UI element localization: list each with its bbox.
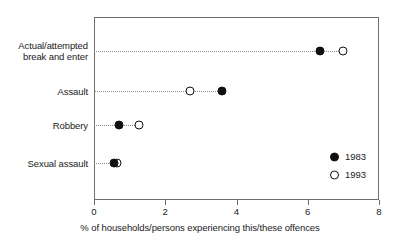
legend-marker-1983 <box>330 153 339 162</box>
data-point-1993 <box>134 121 143 130</box>
leader-line <box>94 91 222 92</box>
chart-figure: Actual/attempted break and enterAssaultR… <box>0 0 400 244</box>
data-point-1993 <box>339 47 348 56</box>
legend-label: 1993 <box>345 169 366 181</box>
x-tick <box>308 200 309 205</box>
legend-marker-1993 <box>330 171 339 180</box>
x-tick-label: 8 <box>376 207 381 217</box>
data-point-1993 <box>186 87 195 96</box>
x-tick-label: 4 <box>234 207 239 217</box>
category-label: Actual/attempted break and enter <box>18 40 88 62</box>
x-tick <box>94 200 95 205</box>
category-label: Assault <box>58 86 88 97</box>
x-tick-label: 0 <box>91 207 96 217</box>
category-label: Sexual assault <box>28 158 88 169</box>
x-axis-label: % of households/persons experiencing thi… <box>0 222 400 233</box>
data-point-1983 <box>316 47 325 56</box>
data-point-1983 <box>218 87 227 96</box>
x-tick-label: 6 <box>305 207 310 217</box>
x-tick-label: 2 <box>163 207 168 217</box>
x-tick <box>165 200 166 205</box>
data-point-1983 <box>109 159 118 168</box>
data-point-1983 <box>114 121 123 130</box>
category-label: Robbery <box>53 120 88 131</box>
leader-line <box>94 51 343 52</box>
legend-label: 1983 <box>345 151 366 163</box>
x-tick <box>379 200 380 205</box>
x-tick <box>237 200 238 205</box>
